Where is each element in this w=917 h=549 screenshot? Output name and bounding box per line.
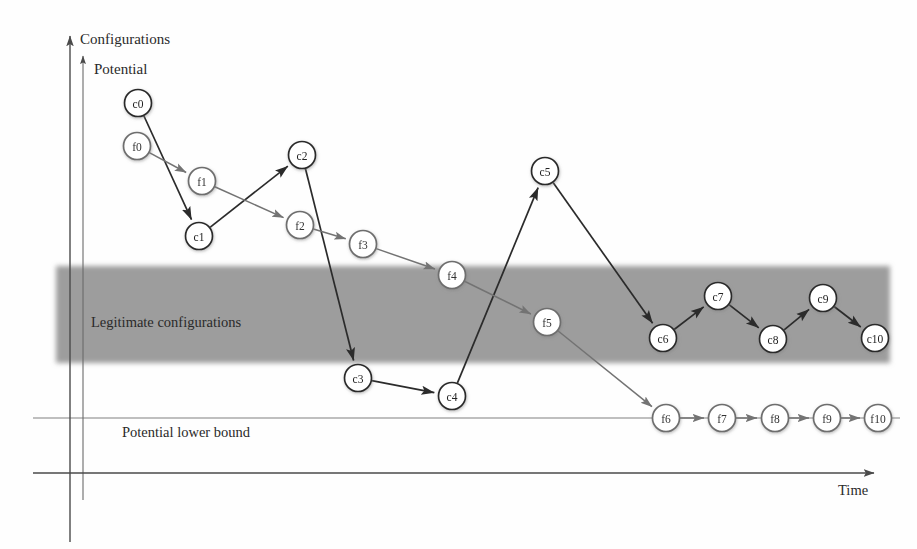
node-label-c0: c0	[133, 98, 144, 110]
edge-c0-to-c1	[144, 116, 192, 220]
edge-f1-to-f2	[215, 187, 284, 218]
node-f2[interactable]: f2	[287, 212, 314, 239]
node-c10[interactable]: c10	[862, 325, 889, 352]
node-f3[interactable]: f3	[350, 231, 377, 258]
node-label-f0: f0	[132, 141, 142, 153]
node-c0[interactable]: c0	[125, 90, 152, 117]
potential-lower-bound-label: Potential lower bound	[122, 424, 251, 440]
node-label-c6: c6	[658, 333, 669, 345]
node-c5[interactable]: c5	[532, 158, 559, 185]
node-f0[interactable]: f0	[124, 133, 151, 160]
node-c1[interactable]: c1	[186, 223, 213, 250]
configurations-axis-label: Configurations	[80, 31, 170, 47]
node-label-f7: f7	[717, 413, 727, 425]
node-label-f6: f6	[661, 413, 671, 425]
node-label-f5: f5	[542, 317, 552, 329]
node-c3[interactable]: c3	[345, 365, 372, 392]
node-f4[interactable]: f4	[439, 262, 466, 289]
node-label-c3: c3	[353, 373, 364, 385]
node-f7[interactable]: f7	[709, 405, 736, 432]
edge-c1-to-c2	[210, 166, 288, 227]
node-label-f8: f8	[770, 413, 780, 425]
edge-c3-to-c4	[372, 381, 435, 393]
node-c7[interactable]: c7	[705, 283, 732, 310]
diagram-svg: Configurations Potential Time Legitimate…	[0, 0, 917, 549]
node-label-c2: c2	[297, 150, 308, 162]
node-label-c8: c8	[768, 334, 779, 346]
node-label-f9: f9	[822, 413, 832, 425]
node-f8[interactable]: f8	[762, 405, 789, 432]
node-label-f3: f3	[358, 239, 368, 251]
potential-axis-label: Potential	[94, 61, 147, 77]
node-label-c7: c7	[713, 291, 724, 303]
node-label-c1: c1	[194, 231, 205, 243]
node-f6[interactable]: f6	[653, 405, 680, 432]
node-f10[interactable]: f10	[865, 405, 892, 432]
node-c6[interactable]: c6	[650, 325, 677, 352]
legitimate-configurations-label: Legitimate configurations	[91, 314, 242, 330]
node-c8[interactable]: c8	[760, 326, 787, 353]
time-axis-label: Time	[838, 482, 868, 498]
edge-f2-to-f3	[313, 229, 345, 239]
node-label-f1: f1	[197, 176, 207, 188]
node-label-f4: f4	[447, 270, 457, 282]
node-c2[interactable]: c2	[289, 142, 316, 169]
node-label-c9: c9	[818, 293, 829, 305]
diagram-canvas: Configurations Potential Time Legitimate…	[0, 0, 917, 549]
node-label-c10: c10	[867, 333, 884, 345]
node-c9[interactable]: c9	[810, 285, 837, 312]
node-f1[interactable]: f1	[189, 168, 216, 195]
node-label-f10: f10	[870, 413, 886, 425]
node-c4[interactable]: c4	[439, 383, 466, 410]
node-f5[interactable]: f5	[534, 309, 561, 336]
node-label-f2: f2	[295, 220, 305, 232]
node-f9[interactable]: f9	[814, 405, 841, 432]
node-label-c4: c4	[447, 391, 458, 403]
node-label-c5: c5	[540, 166, 551, 178]
